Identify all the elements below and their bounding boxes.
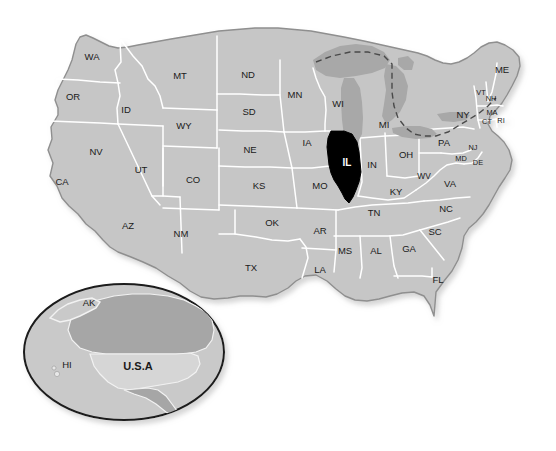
mainland-usa-group (48, 28, 520, 316)
state-label-ri: RI (497, 116, 504, 125)
inset-label-usa: U.S.A (123, 360, 152, 372)
locator-inset (24, 284, 224, 420)
inset-label-ak: AK (83, 297, 96, 308)
us-map-svg: WAORCAIDNVMTWYUTCOAZNMNDSDNEKSOKTXMNIAMO… (0, 0, 556, 451)
inset-label-hi: HI (62, 359, 72, 370)
us-map: WAORCAIDNVMTWYUTCOAZNMNDSDNEKSOKTXMNIAMO… (0, 0, 556, 451)
usa-landmass (48, 28, 520, 316)
